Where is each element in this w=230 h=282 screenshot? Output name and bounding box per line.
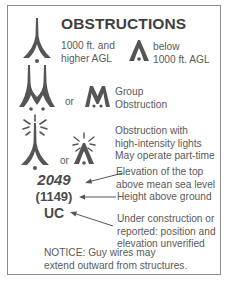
tall-group-obstruction-icon (19, 65, 55, 111)
or-label-group: or (65, 96, 74, 107)
tall-obstruction-icon (22, 18, 52, 64)
short-lighted-obstruction-icon (71, 133, 97, 166)
legend-title: OBSTRUCTIONS (61, 15, 186, 33)
height-agl-value: (1149) (32, 189, 76, 204)
short-group-obstruction-icon (85, 86, 110, 108)
uc-arrow-icon (69, 210, 114, 228)
short-obstruction-icon (129, 40, 149, 62)
group-obstruction-label: Group Obstruction (115, 86, 167, 111)
height-arrow-icon (78, 193, 118, 201)
under-construction-label: Under construction or reported: position… (117, 213, 216, 251)
guy-wire-notice: NOTICE: Guy wires may extend outward fro… (44, 247, 187, 272)
lighted-obstruction-label: Obstruction with high-intensity lights M… (115, 125, 215, 163)
high-obstruction-label: 1000 ft. and higher AGL (61, 40, 115, 65)
tall-lighted-obstruction-icon (20, 115, 50, 171)
or-label-lighted: or (60, 155, 69, 166)
elevation-label: Elevation of the top above mean sea leve… (116, 166, 215, 191)
elevation-msl-value: 2049 (32, 171, 76, 188)
height-label: Height above ground (117, 191, 212, 204)
low-obstruction-label: below 1000 ft. AGL (153, 41, 210, 66)
